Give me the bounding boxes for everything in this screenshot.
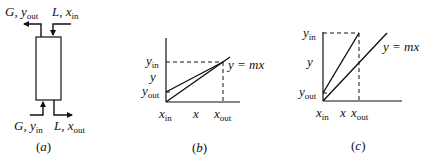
x-axis-label: x	[340, 106, 346, 119]
y-in-label: yin	[146, 54, 159, 70]
diagram-canvas	[0, 0, 430, 165]
liquid-in-label: L, xin	[52, 5, 79, 21]
liquid-in-arrow-icon	[53, 24, 71, 35]
x-out-label: xout	[351, 106, 368, 122]
absorber-column-diagram	[24, 24, 72, 115]
equilibrium-line	[323, 33, 387, 101]
liquid-out-arrow-icon	[54, 100, 72, 115]
y-axis-label: y	[307, 55, 313, 68]
y-out-label: yout	[142, 84, 159, 100]
liquid-out-label: L, xout	[54, 119, 85, 135]
x-in-label: xin	[316, 106, 329, 122]
gas-out-label: G, yout	[5, 5, 38, 21]
caption-a: (a)	[36, 139, 51, 155]
equilibrium-line	[166, 57, 230, 102]
gas-in-arrow-icon	[30, 102, 43, 115]
column-body	[36, 37, 61, 100]
x-in-label: xin	[159, 107, 172, 123]
y-out-label: yout	[299, 85, 316, 101]
caption-b: (b)	[192, 140, 207, 156]
y-axis-label: y	[150, 70, 156, 83]
operating-line	[323, 33, 359, 93]
caption-c: (c)	[351, 138, 365, 154]
gas-in-label: G, yin	[14, 119, 43, 135]
y-in-label: yin	[303, 26, 316, 42]
equilibrium-label: y = mx	[228, 58, 264, 71]
equilibrium-label: y = mx	[383, 40, 419, 53]
operating-line	[166, 62, 223, 92]
gas-out-arrow-icon	[24, 24, 41, 37]
x-out-label: xout	[214, 107, 231, 123]
x-axis-label: x	[193, 107, 199, 120]
